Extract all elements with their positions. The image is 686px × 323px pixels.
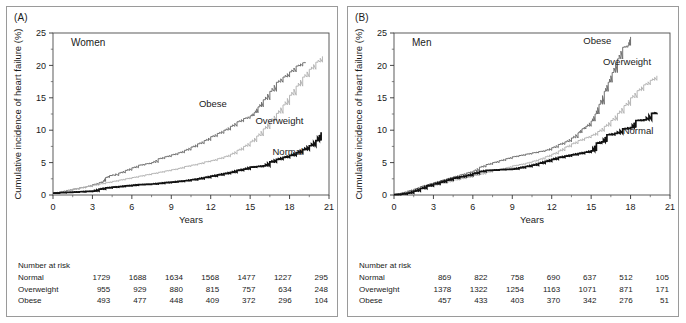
x-tick-label: 15 <box>245 202 255 212</box>
risk-cell: 1568 <box>185 272 221 283</box>
x-axis-title: Years <box>179 214 203 225</box>
curve-label-overweight: Overweight <box>255 115 303 126</box>
risk-cell: 512 <box>598 272 634 283</box>
y-tick-label: 5 <box>41 158 46 168</box>
table-row: Obese 493 477 448 409 372 296 104 <box>18 295 330 306</box>
x-tick-label: 12 <box>547 202 557 212</box>
y-tick-label: 10 <box>377 125 387 135</box>
y-axis-title: Cumulative incidence of heart failure (%… <box>353 28 364 199</box>
risk-cell: 955 <box>76 284 112 295</box>
y-tick-label: 15 <box>36 93 46 103</box>
table-row: Normal 1729 1688 1634 1568 1477 1227 295 <box>18 272 330 283</box>
risk-cell: 433 <box>453 295 489 306</box>
x-tick-label: 21 <box>324 202 334 212</box>
panel-a-risk-table: Number at risk Normal 1729 1688 1634 156… <box>18 260 330 306</box>
risk-cell: 880 <box>149 284 185 295</box>
risk-cell: 929 <box>112 284 148 295</box>
risk-cell: 477 <box>112 295 148 306</box>
curve-label-obese: Obese <box>583 35 611 46</box>
risk-cell: 690 <box>526 272 562 283</box>
panel-b: (B) 0510152025036912151821YearsCumulativ… <box>347 6 679 317</box>
group-title: Men <box>412 37 431 48</box>
risk-row-label: Normal <box>359 272 417 283</box>
y-tick-label: 0 <box>41 190 46 200</box>
risk-cell: 457 <box>417 295 453 306</box>
risk-cell: 637 <box>562 272 598 283</box>
risk-row-label: Overweight <box>18 284 76 295</box>
risk-cell: 1322 <box>453 284 489 295</box>
x-axis-title: Years <box>520 214 544 225</box>
risk-cell: 1378 <box>417 284 453 295</box>
risk-cell: 1071 <box>562 284 598 295</box>
y-tick-label: 20 <box>36 61 46 71</box>
risk-cell: 104 <box>294 295 330 306</box>
risk-cell: 448 <box>149 295 185 306</box>
risk-row-label: Normal <box>18 272 76 283</box>
y-tick-label: 5 <box>382 158 387 168</box>
x-tick-label: 3 <box>431 202 436 212</box>
risk-cell: 1688 <box>112 272 148 283</box>
risk-cell: 758 <box>490 272 526 283</box>
risk-cell: 493 <box>76 295 112 306</box>
x-tick-label: 6 <box>470 202 475 212</box>
risk-cell: 871 <box>598 284 634 295</box>
curve-normal <box>53 132 321 193</box>
curve-label-obese: Obese <box>199 98 227 109</box>
risk-cell: 372 <box>221 295 257 306</box>
risk-cell: 248 <box>294 284 330 295</box>
x-tick-label: 21 <box>665 202 675 212</box>
risk-cell: 296 <box>257 295 293 306</box>
panel-a-chart-svg: 0510152025036912151821YearsCumulative in… <box>7 7 338 257</box>
risk-cell: 409 <box>185 295 221 306</box>
risk-cell: 105 <box>635 272 671 283</box>
risk-cell: 370 <box>526 295 562 306</box>
risk-cell: 295 <box>294 272 330 283</box>
curve-label-normal: Normal <box>623 125 654 136</box>
risk-cell: 757 <box>221 284 257 295</box>
y-tick-label: 10 <box>36 125 46 135</box>
y-tick-label: 20 <box>377 61 387 71</box>
curve-obese <box>394 37 631 194</box>
x-tick-label: 3 <box>90 202 95 212</box>
risk-cell: 1227 <box>257 272 293 283</box>
risk-cell: 51 <box>635 295 671 306</box>
risk-cell: 1477 <box>221 272 257 283</box>
risk-cell: 815 <box>185 284 221 295</box>
risk-row-label: Obese <box>359 295 417 306</box>
y-tick-label: 25 <box>377 28 387 38</box>
panel-b-chart-svg: 0510152025036912151821YearsCumulative in… <box>348 7 679 257</box>
risk-cell: 1254 <box>490 284 526 295</box>
risk-cell: 403 <box>490 295 526 306</box>
risk-cell: 1634 <box>149 272 185 283</box>
curve-overweight <box>394 76 657 195</box>
panel-a: (A) 0510152025036912151821YearsCumulativ… <box>6 6 338 317</box>
figure-root: (A) 0510152025036912151821YearsCumulativ… <box>0 0 686 323</box>
table-row: Obese 457 433 403 370 342 276 51 <box>359 295 671 306</box>
risk-cell: 1163 <box>526 284 562 295</box>
y-tick-label: 0 <box>382 190 387 200</box>
y-tick-label: 25 <box>36 28 46 38</box>
x-tick-label: 6 <box>129 202 134 212</box>
x-tick-label: 12 <box>206 202 216 212</box>
x-tick-label: 9 <box>510 202 515 212</box>
panel-a-risk-title: Number at risk <box>18 260 330 271</box>
y-tick-label: 15 <box>377 93 387 103</box>
risk-cell: 342 <box>562 295 598 306</box>
risk-cell: 171 <box>635 284 671 295</box>
x-tick-label: 18 <box>626 202 636 212</box>
risk-cell: 634 <box>257 284 293 295</box>
x-tick-label: 18 <box>285 202 295 212</box>
curve-label-normal: Normal <box>272 146 303 157</box>
risk-cell: 1729 <box>76 272 112 283</box>
panel-b-risk-table: Number at risk Normal 869 822 758 690 63… <box>359 260 671 306</box>
risk-cell: 276 <box>598 295 634 306</box>
panel-b-risk-title: Number at risk <box>359 260 671 271</box>
risk-row-label: Obese <box>18 295 76 306</box>
risk-cell: 822 <box>453 272 489 283</box>
x-tick-label: 15 <box>586 202 596 212</box>
x-tick-label: 0 <box>391 202 396 212</box>
table-row: Overweight 1378 1322 1254 1163 1071 871 … <box>359 284 671 295</box>
group-title: Women <box>71 37 105 48</box>
risk-cell: 869 <box>417 272 453 283</box>
risk-row-label: Overweight <box>359 284 417 295</box>
